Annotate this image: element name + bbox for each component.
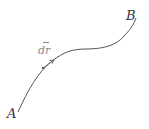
vector-arrow-icon — [43, 42, 49, 43]
dr-vector-arrow — [43, 60, 54, 68]
vector-label-text: dr — [38, 44, 50, 57]
vector-label-dr: dr — [38, 45, 50, 56]
curve-path-a-to-b — [18, 18, 136, 112]
point-label-b: B — [126, 9, 136, 22]
point-label-a: A — [7, 107, 16, 120]
